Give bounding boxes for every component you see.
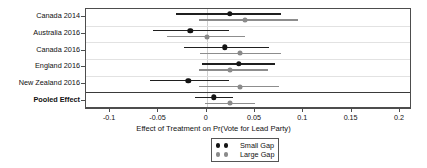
data-point	[204, 34, 209, 39]
legend-item-small-gap: Small Gap	[215, 141, 274, 150]
x-axis-tick	[254, 108, 255, 112]
data-point	[237, 84, 242, 89]
legend-item-large-gap: Large Gap	[215, 150, 274, 159]
y-axis-label-pooled-effect: Pooled Effect	[0, 96, 80, 104]
data-point	[227, 11, 232, 16]
forest-plot-figure: Canada 2014Australia 2016Canada 2016Engl…	[0, 0, 427, 168]
y-axis-label-australia-2016: Australia 2016	[0, 29, 80, 37]
row-separator	[86, 42, 410, 43]
row-separator	[86, 76, 410, 77]
x-axis-tick	[206, 108, 207, 112]
x-axis-line	[85, 108, 411, 109]
x-axis-tick	[109, 108, 110, 112]
x-axis-tick	[399, 108, 400, 112]
data-point	[186, 78, 191, 83]
x-axis-tick	[302, 108, 303, 112]
data-point	[211, 95, 216, 100]
y-axis-label-new-zealand-2016: New Zealand 2016	[0, 79, 80, 87]
x-axis-tick	[157, 108, 158, 112]
plot-area	[85, 8, 411, 108]
x-axis-tick-label: 0.2	[394, 113, 404, 122]
x-axis-tick-label: 0.15	[344, 113, 358, 122]
confidence-interval-line	[199, 69, 268, 70]
data-point	[236, 61, 241, 66]
x-axis-tick-label: 0	[204, 113, 208, 122]
legend-dot-icon	[216, 152, 220, 156]
data-point	[227, 68, 232, 73]
y-axis-label-canada-2014: Canada 2014	[0, 12, 80, 20]
y-axis-label-canada-2016: Canada 2016	[0, 46, 80, 54]
data-point	[243, 18, 248, 23]
data-point	[227, 101, 232, 106]
plot-inner	[86, 9, 410, 107]
pooled-effect-separator	[86, 92, 410, 94]
legend: Small Gap Large Gap	[211, 138, 279, 162]
legend-key-small-gap	[215, 143, 236, 147]
legend-label-large-gap: Large Gap	[240, 150, 274, 159]
row-separator	[86, 59, 410, 60]
y-axis-labels: Canada 2014Australia 2016Canada 2016Engl…	[0, 8, 80, 108]
x-axis-tick-label: -0.1	[103, 113, 115, 122]
legend-dot-icon	[216, 143, 220, 147]
legend-dot-icon	[224, 143, 228, 147]
data-point	[222, 45, 227, 50]
row-separator	[86, 26, 410, 27]
confidence-interval-line	[199, 19, 298, 20]
x-axis-tick-label: -0.05	[149, 113, 165, 122]
y-axis-label-england-2016: England 2016	[0, 62, 80, 70]
x-axis-title: Effect of Treatment on Pr(Vote for Lead …	[0, 124, 427, 133]
data-point	[237, 51, 242, 56]
legend-dot-icon	[224, 152, 228, 156]
x-axis-tick	[351, 108, 352, 112]
x-axis-tick-label: 0.05	[247, 113, 261, 122]
legend-key-large-gap	[215, 152, 236, 156]
legend-label-small-gap: Small Gap	[240, 141, 274, 150]
x-axis-tick-label: 0.1	[297, 113, 307, 122]
data-point	[188, 28, 193, 33]
